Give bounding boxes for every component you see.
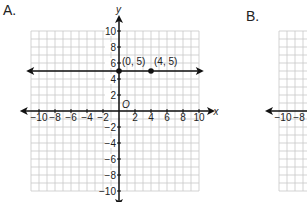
svg-text:6: 6 (110, 58, 116, 69)
svg-text:O: O (122, 99, 130, 110)
svg-text:2: 2 (110, 90, 116, 101)
svg-text:y: y (115, 4, 122, 15)
svg-text:−6: −6 (105, 154, 117, 165)
svg-text:−10: −10 (31, 112, 48, 123)
svg-text:−8: −8 (293, 112, 305, 123)
svg-text:4: 4 (110, 74, 116, 85)
svg-text:−4: −4 (105, 138, 117, 149)
svg-text:4: 4 (148, 112, 154, 123)
svg-text:6: 6 (164, 112, 170, 123)
svg-text:−10: −10 (99, 186, 116, 197)
svg-text:−6: −6 (65, 112, 77, 123)
axes-b: −10−8 (265, 107, 307, 123)
svg-text:8: 8 (110, 42, 116, 53)
svg-text:10: 10 (193, 112, 205, 123)
coordinate-graphs: xyO−10−8−6−4−2246810108642−2−4−6−8−10(0,… (0, 0, 307, 202)
svg-text:(0, 5): (0, 5) (122, 56, 145, 67)
svg-text:(4, 5): (4, 5) (154, 56, 177, 67)
svg-text:8: 8 (180, 112, 186, 123)
svg-text:−8: −8 (105, 170, 117, 181)
svg-text:−2: −2 (105, 122, 117, 133)
svg-text:−8: −8 (49, 112, 61, 123)
svg-text:−10: −10 (275, 112, 292, 123)
svg-text:−4: −4 (81, 112, 93, 123)
svg-text:2: 2 (132, 112, 138, 123)
svg-text:x: x (212, 106, 219, 117)
svg-text:10: 10 (105, 26, 117, 37)
